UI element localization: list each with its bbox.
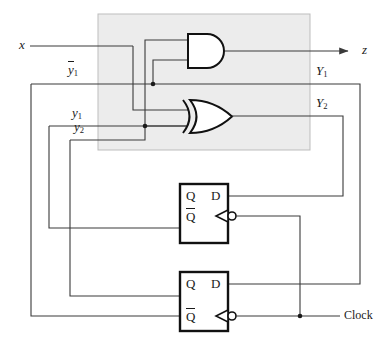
label-y2-sub: 2 bbox=[80, 125, 84, 135]
label-output-z: z bbox=[362, 42, 367, 58]
flip-flop-1-q-label: Q bbox=[186, 188, 195, 204]
junction-dot-y2 bbox=[143, 124, 148, 129]
flip-flop-1-clock-bubble bbox=[228, 212, 236, 220]
label-ybar1-letter: y bbox=[68, 62, 74, 78]
flip-flop-1-qbar-letter: Q bbox=[186, 209, 195, 225]
label-Y1: Y1 bbox=[316, 63, 328, 79]
and-gate-body bbox=[188, 34, 224, 68]
junction-dot-clock bbox=[298, 314, 303, 319]
flip-flop-2-qbar-letter: Q bbox=[186, 309, 195, 325]
wire-y2-left-riser bbox=[70, 140, 180, 296]
label-ybar1-sub: 1 bbox=[74, 68, 78, 78]
flip-flop-1-qbar-label: Q bbox=[186, 209, 195, 225]
circuit-svg bbox=[0, 0, 392, 354]
label-y2: y2 bbox=[74, 119, 84, 135]
label-ybar1: y1 bbox=[68, 62, 78, 78]
label-input-x: x bbox=[19, 37, 25, 53]
flip-flop-2-qbar-label: Q bbox=[186, 309, 195, 325]
label-Y2-sub: 2 bbox=[323, 101, 327, 111]
flip-flop-1-d-label: D bbox=[211, 188, 220, 204]
label-clock: Clock bbox=[344, 308, 373, 323]
circuit-diagram-figure: x z y1 y1 y2 Y1 Y2 Clock Q D Q Q D Q bbox=[0, 0, 392, 354]
flip-flop-2-clock-bubble bbox=[228, 312, 236, 320]
flip-flop-2-d-label: D bbox=[211, 276, 220, 292]
flip-flop-2-q-label: Q bbox=[186, 276, 195, 292]
wire-ff1-clock bbox=[236, 216, 300, 316]
label-Y1-sub: 1 bbox=[323, 69, 327, 79]
junction-dot-ybar1 bbox=[151, 82, 156, 87]
label-Y2: Y2 bbox=[316, 95, 328, 111]
